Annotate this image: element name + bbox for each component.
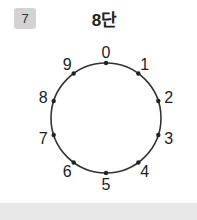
dial-label-0: 0 <box>102 44 111 61</box>
dial-label-2: 2 <box>164 89 173 106</box>
dial-label-8: 8 <box>39 89 48 106</box>
dial-label-4: 4 <box>140 163 149 180</box>
dial-label-3: 3 <box>164 130 173 147</box>
dial-label-6: 6 <box>63 163 72 180</box>
dial-point-6 <box>71 160 75 164</box>
dial-point-2 <box>156 99 160 103</box>
dial-label-9: 9 <box>63 56 72 73</box>
dial-circle <box>51 63 161 173</box>
number-dial-diagram: 0123456789 <box>0 0 197 220</box>
dial-point-7 <box>51 133 55 137</box>
dial-point-8 <box>51 99 55 103</box>
dial-point-0 <box>104 61 108 65</box>
dial-label-1: 1 <box>140 56 149 73</box>
dial-point-9 <box>71 71 75 75</box>
dial-label-5: 5 <box>102 176 111 193</box>
footer-band <box>0 203 197 220</box>
dial-point-3 <box>156 133 160 137</box>
dial-label-7: 7 <box>39 130 48 147</box>
